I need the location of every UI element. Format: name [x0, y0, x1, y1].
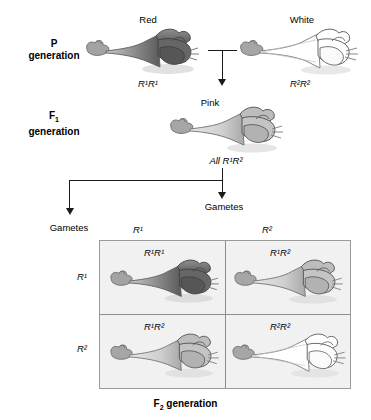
- flower-graphic-red: [84, 27, 200, 77]
- p-parent-white-genotype-text: R²R²: [290, 78, 310, 89]
- flower-graphic-pink: [168, 105, 284, 155]
- gametes-right-label: Gametes: [197, 201, 251, 212]
- p-generation-label: P generation: [18, 38, 90, 62]
- flower-graphic-pink: [232, 258, 344, 306]
- figure-canvas: P generation Red: [0, 0, 371, 420]
- punnett-row-header-1: R¹: [70, 271, 94, 282]
- p-parent-white-phenotype: White: [280, 14, 324, 25]
- f1-generation-label: F1 generation: [18, 110, 90, 138]
- p-parent-white-flower: [238, 27, 358, 77]
- f1-generation-label-sub: 1: [55, 116, 59, 123]
- f1-generation-label-line2: generation: [28, 126, 79, 137]
- punnett-column-header-1: R¹: [123, 224, 153, 235]
- punnett-cell-r1r2-top-genotype: R¹R²: [270, 247, 290, 258]
- punnett-cell-r1r1-genotype: R¹R¹: [144, 247, 164, 258]
- cross-arrowhead-icon: [218, 79, 226, 86]
- p-parent-white-genotype: R²R²: [265, 78, 335, 89]
- gametes-left-line: [69, 180, 70, 209]
- p-generation-label-line2: generation: [28, 50, 79, 61]
- f1-genotype: All R¹R²: [186, 155, 266, 166]
- punnett-cell-r2r2[interactable]: R²R²: [226, 315, 350, 388]
- flower-graphic-white: [230, 332, 346, 380]
- selfcross-horizontal-line: [69, 180, 223, 181]
- punnett-cell-r2r2-genotype: R²R²: [270, 321, 290, 332]
- p-generation-label-line1: P: [51, 38, 58, 49]
- p-parent-red-phenotype: Red: [128, 14, 168, 25]
- punnett-cell-r2r2-flower: [230, 332, 346, 380]
- punnett-cell-r1r2-bottom-genotype: R¹R²: [144, 321, 164, 332]
- cross-vertical-line: [222, 50, 223, 80]
- gametes-right-arrowhead-icon: [218, 192, 226, 199]
- f2-generation-caption: F2 generation: [0, 398, 371, 411]
- f2-caption-line2: generation: [164, 398, 218, 409]
- p-parent-red-genotype-text: R¹R¹: [138, 78, 158, 89]
- punnett-cell-r1r2-top[interactable]: R¹R²: [226, 241, 350, 314]
- punnett-column-header-2: R²: [252, 224, 282, 235]
- punnett-cell-r1r1[interactable]: R¹R¹: [100, 241, 225, 314]
- punnett-row-header-2: R²: [70, 343, 94, 354]
- punnett-square: R¹R¹ R¹R²: [99, 240, 351, 389]
- flower-graphic-red: [108, 258, 220, 306]
- punnett-cell-r1r2-top-flower: [232, 258, 344, 306]
- f1-flower: [168, 105, 284, 155]
- p-parent-red-genotype: R¹R¹: [113, 78, 183, 89]
- p-parent-red-flower: [84, 27, 200, 77]
- gametes-left-label: Gametes: [42, 222, 96, 233]
- punnett-cell-r1r1-flower: [108, 258, 220, 306]
- flower-graphic-white: [238, 27, 358, 77]
- punnett-cell-r1r2-bottom[interactable]: R¹R²: [100, 315, 225, 388]
- gametes-left-arrowhead-icon: [66, 208, 74, 215]
- flower-graphic-pink: [108, 332, 220, 380]
- punnett-cell-r1r2-bottom-flower: [108, 332, 220, 380]
